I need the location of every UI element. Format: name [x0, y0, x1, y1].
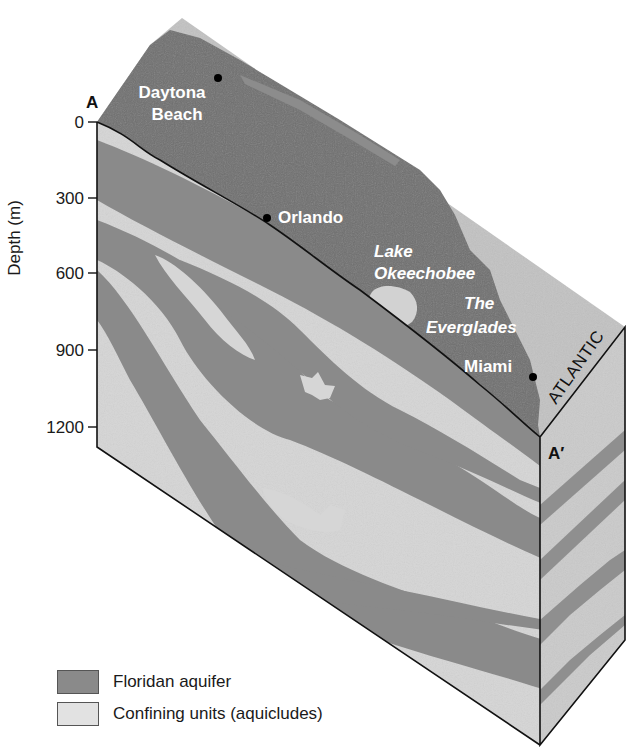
aquifer-swatch [57, 670, 99, 694]
aquifer-block-diagram: 0 300 600 900 1200 Depth (m) A A′ Dayton… [0, 0, 633, 756]
legend-label-aquifer: Floridan aquifer [113, 672, 231, 692]
daytona-beach-marker [214, 74, 222, 82]
section-start-label: A [86, 93, 98, 112]
legend: Floridan aquifer Confining units (aquicl… [57, 666, 323, 730]
lake-label-line1: Lake [374, 242, 413, 261]
orlando-marker [263, 214, 271, 222]
orlando-label: Orlando [278, 208, 343, 227]
daytona-label-line1: Daytona [138, 83, 206, 102]
legend-item-aquifer: Floridan aquifer [57, 666, 323, 698]
daytona-label-line2: Beach [151, 105, 202, 124]
section-end-label: A′ [548, 444, 564, 463]
miami-marker [529, 373, 537, 381]
miami-label: Miami [464, 357, 512, 376]
everglades-label-line2: Everglades [426, 318, 517, 337]
tick-300: 300 [56, 189, 84, 208]
everglades-label-line1: The [464, 294, 494, 313]
tick-0: 0 [75, 113, 84, 132]
legend-item-confining: Confining units (aquicludes) [57, 698, 323, 730]
confining-swatch [57, 702, 99, 726]
legend-label-confining: Confining units (aquicludes) [113, 704, 323, 724]
tick-1200: 1200 [46, 418, 84, 437]
lake-label-line2: Okeechobee [374, 264, 475, 283]
tick-600: 600 [56, 264, 84, 283]
depth-axis: 0 300 600 900 1200 Depth (m) [5, 113, 97, 437]
depth-axis-label: Depth (m) [5, 200, 24, 276]
tick-900: 900 [56, 341, 84, 360]
